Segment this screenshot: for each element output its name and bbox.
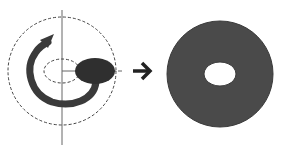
revolution-construction — [8, 10, 122, 145]
torus — [167, 21, 273, 127]
torus-ring — [167, 21, 273, 127]
profile-ellipse — [75, 58, 115, 84]
diagram-svg — [0, 0, 281, 155]
result-arrow — [133, 63, 150, 79]
diagram-canvas: Revolution of an ellipse around an axis … — [0, 0, 281, 155]
